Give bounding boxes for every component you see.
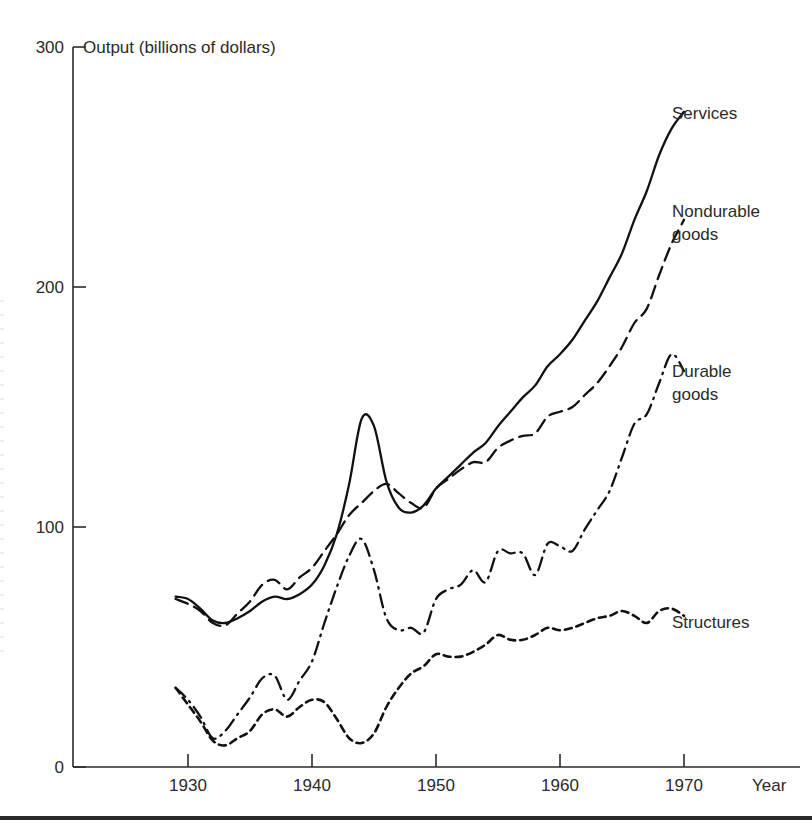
series-label-durable-goods-line2: goods (672, 385, 718, 404)
series-paths-group (176, 112, 684, 746)
y-tick-label-0: 0 (55, 758, 64, 777)
x-tick-label-1940: 1940 (293, 776, 331, 795)
page-bottom-rule (0, 816, 812, 820)
y-tick-label-200: 200 (36, 278, 64, 297)
series-label-durable-goods: Durable (672, 362, 732, 381)
x-tick-label-1930: 1930 (169, 776, 207, 795)
series-label-nondurable-goods: Nondurable (672, 202, 760, 221)
line-chart-plot: 0100200300 19301940195019601970 Output (… (0, 0, 812, 833)
y-axis-ticks (73, 47, 86, 767)
chart-figure: 0100200300 19301940195019601970 Output (… (0, 0, 812, 833)
series-line-durable-goods (176, 354, 684, 739)
series-label-services: Services (672, 104, 737, 123)
x-axis-ticks (188, 754, 684, 767)
x-tick-label-1970: 1970 (665, 776, 703, 795)
y-tick-label-100: 100 (36, 518, 64, 537)
y-axis-title: Output (billions of dollars) (83, 38, 276, 57)
series-line-services (176, 112, 684, 623)
series-label-nondurable-goods-line2: goods (672, 225, 718, 244)
series-label-structures: Structures (672, 613, 749, 632)
series-line-structures (176, 608, 684, 745)
x-tick-label-1950: 1950 (417, 776, 455, 795)
x-axis-title: Year (752, 776, 787, 795)
y-tick-label-300: 300 (36, 38, 64, 57)
x-tick-label-1960: 1960 (541, 776, 579, 795)
x-axis-tick-labels: 19301940195019601970 (169, 776, 703, 795)
y-axis-tick-labels: 0100200300 (36, 38, 64, 777)
